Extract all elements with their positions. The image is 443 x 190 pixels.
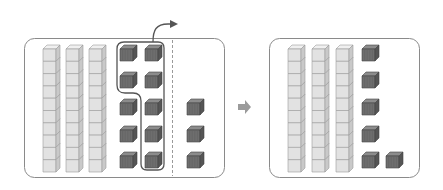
unit-cube: [120, 99, 137, 115]
tens-rod: [89, 45, 106, 172]
unit-cube: [120, 72, 137, 88]
unit-cube: [362, 152, 379, 168]
tens-rod: [288, 45, 305, 172]
unit-cube: [187, 99, 204, 115]
unit-cube: [145, 72, 162, 88]
unit-cube: [120, 152, 137, 168]
unit-cube: [120, 126, 137, 142]
transition-arrow-icon: [238, 100, 251, 114]
tens-rod: [66, 45, 83, 172]
unit-cube: [362, 45, 379, 61]
unit-cube: [120, 45, 137, 61]
unit-cube: [386, 152, 403, 168]
unit-cube: [362, 72, 379, 88]
unit-cube: [362, 99, 379, 115]
unit-cube: [145, 99, 162, 115]
unit-cube: [187, 152, 204, 168]
base-ten-diagram: [0, 0, 443, 190]
tens-rod: [336, 45, 353, 172]
unit-cube: [145, 152, 162, 168]
tens-rod: [43, 45, 60, 172]
unit-cube: [145, 126, 162, 142]
unit-cube: [187, 126, 204, 142]
after-tens-rods: [288, 45, 353, 172]
tens-rod: [312, 45, 329, 172]
unit-cube: [362, 126, 379, 142]
before-tens-rods: [43, 45, 106, 172]
unit-cube: [145, 45, 162, 61]
